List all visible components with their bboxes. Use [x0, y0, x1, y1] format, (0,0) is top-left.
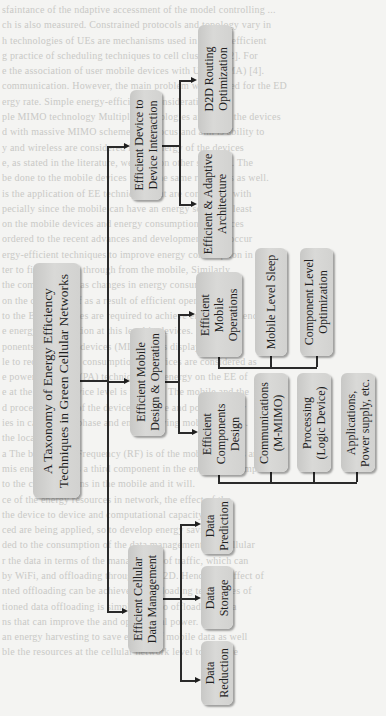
- connector-to-mobile: [107, 381, 124, 383]
- data-storage-line1: Data: [203, 579, 217, 616]
- node-efficient-cellular-data-management: Efficient Cellular Data Management: [128, 545, 163, 652]
- data-label-line1: Efficient Cellular: [132, 554, 146, 642]
- data-label-line2: Data Management: [146, 554, 160, 642]
- node-component-level-optimization: Component Level Optimization: [300, 248, 333, 356]
- connector-main-spine: [107, 146, 109, 611]
- node-efficient-mobile-operations: Efficient Mobile Operations: [196, 272, 242, 357]
- communications-line2: (M-MIMO): [271, 382, 285, 464]
- processing-line1: Processing: [300, 386, 314, 459]
- bracket-components: [218, 482, 357, 484]
- bracket-components-a: [218, 475, 220, 482]
- connector-to-d2d: [107, 146, 124, 148]
- node-d2d-routing-optimization: D2D Routing Optimization: [198, 25, 232, 133]
- data-prediction-line1: Data: [203, 501, 217, 550]
- root-label-line1: A Taxonomy of Energy Efficiency: [41, 273, 57, 487]
- connector-d2d-out: [162, 145, 179, 147]
- applications-line2: Power supply, etc.: [358, 379, 372, 467]
- data-reduction-line1: Data: [203, 648, 217, 697]
- component-opt-line1: Component Level: [303, 259, 317, 345]
- data-prediction-line2: Prediction: [217, 501, 231, 550]
- bracket-components-d: [356, 472, 358, 482]
- connector-data-out: [163, 598, 180, 600]
- node-data-reduction: Data Reduction: [201, 641, 233, 705]
- node-data-prediction: Data Prediction: [201, 498, 233, 554]
- components-line2: Components: [215, 403, 229, 464]
- bracket-components-c: [313, 472, 315, 482]
- mobile-ops-line2: Mobile: [212, 288, 226, 341]
- connector-to-adaptive-arch: [179, 204, 191, 206]
- d2d-label-line1: Efficient Device to: [132, 99, 146, 190]
- node-communications-mmimo: Communications (M-MIMO): [254, 373, 288, 472]
- connector-root-spine: [80, 380, 107, 382]
- arrow-to-adaptive-arch: [191, 201, 197, 207]
- bracket-mobile-ops-c: [316, 356, 318, 367]
- node-mobile-level-sleep: Mobile Level Sleep: [255, 248, 287, 356]
- connector-d2d-spine: [179, 80, 181, 205]
- bracket-components-b: [270, 472, 272, 482]
- communications-line1: Communications: [257, 382, 271, 464]
- connector-to-data: [107, 611, 122, 613]
- bracket-mobile-ops-a: [218, 357, 220, 367]
- processing-line2: (Logic Device): [314, 386, 328, 459]
- connector-to-mobile-ops: [178, 314, 189, 316]
- mobile-label-line1: Efficient Mobile: [134, 333, 148, 430]
- connector-to-data-storage: [180, 598, 195, 600]
- adaptive-arch-line1: Efficient & Adaptive: [201, 154, 215, 254]
- d2d-routing-line2: Optimization: [215, 46, 229, 111]
- data-reduction-line2: Reduction: [217, 648, 231, 697]
- mobile-ops-line1: Efficient: [198, 288, 212, 341]
- connector-to-d2d-routing: [179, 80, 191, 82]
- node-applications-power-supply: Applications, Power supply, etc.: [341, 373, 375, 472]
- applications-line1: Applications,: [344, 379, 358, 467]
- node-root-taxonomy: A Taxonomy of Energy Efficiency Techniqu…: [33, 263, 80, 498]
- connector-to-data-reduction: [180, 680, 195, 682]
- mobile-sleep-line1: Mobile Level Sleep: [264, 255, 278, 350]
- components-line3: Design: [229, 403, 243, 464]
- adaptive-arch-line2: Architecture: [215, 154, 229, 254]
- connector-to-data-prediction: [180, 524, 195, 526]
- node-efficient-components-design: Efficient Components Design: [198, 392, 245, 475]
- connector-mobile-spine: [178, 314, 180, 432]
- root-label-line2: Techniques in Green Cellular Networks: [57, 273, 73, 487]
- connector-to-components: [178, 432, 192, 434]
- arrow-to-mobile-ops: [189, 311, 195, 317]
- node-efficient-adaptive-architecture: Efficient & Adaptive Architecture: [198, 150, 232, 258]
- node-efficient-d2d-interaction: Efficient Device to Device Interaction: [130, 90, 162, 200]
- mobile-label-line2: Design & Operation: [148, 333, 162, 430]
- connector-mobile-out: [165, 381, 178, 383]
- node-efficient-mobile-design-operation: Efficient Mobile Design & Operation: [130, 328, 165, 436]
- connector-data-spine: [180, 524, 182, 681]
- component-opt-line2: Optimization: [317, 259, 331, 345]
- bracket-mobile-ops: [218, 367, 317, 369]
- bracket-mobile-ops-b: [270, 356, 272, 367]
- mobile-ops-line3: Operations: [226, 288, 240, 341]
- components-line1: Efficient: [201, 403, 215, 464]
- arrow-to-d2d-routing: [191, 77, 197, 83]
- d2d-label-line2: Device Interaction: [146, 99, 160, 190]
- node-data-storage: Data Storage: [201, 566, 233, 629]
- node-processing-logic-device: Processing (Logic Device): [297, 373, 331, 472]
- data-storage-line2: Storage: [217, 579, 231, 616]
- d2d-routing-line1: D2D Routing: [201, 46, 215, 111]
